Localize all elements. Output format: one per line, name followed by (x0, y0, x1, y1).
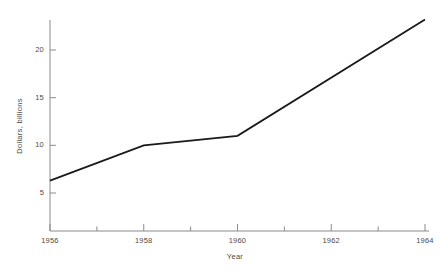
x-tick-label-1960: 1960 (226, 236, 250, 245)
x-tick-label-1958: 1958 (132, 236, 156, 245)
y-axis-title: Dollars, billions (15, 98, 24, 154)
x-axis-title: Year (205, 252, 265, 261)
x-tick-label-1962: 1962 (319, 236, 343, 245)
y-axis-ticks (50, 50, 56, 193)
y-tick-label-5: 5 (30, 188, 44, 197)
line-chart-canvas: Dollars, billions (0, 0, 440, 276)
data-series-line (50, 19, 425, 180)
y-tick-label-10: 10 (30, 140, 44, 149)
y-tick-label-20: 20 (30, 45, 44, 54)
chart-figure: Dollars, billions 20 15 10 5 1956 1958 1… (0, 0, 440, 276)
x-tick-label-1964: 1964 (413, 236, 437, 245)
x-axis-major-ticks (50, 224, 425, 231)
x-tick-label-1956: 1956 (38, 236, 62, 245)
y-tick-label-15: 15 (30, 93, 44, 102)
